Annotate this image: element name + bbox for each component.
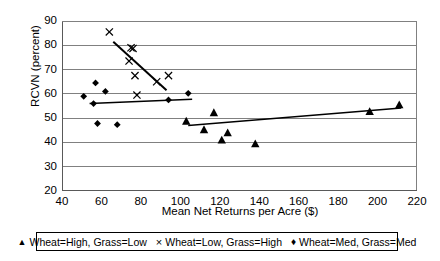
y-tick-label: 40 [31, 136, 57, 147]
data-point-diamond [92, 80, 99, 87]
data-point-triangle [218, 136, 226, 144]
data-point-diamond [185, 90, 192, 97]
x-tick-label: 160 [284, 196, 314, 207]
legend-item: ▲Wheat=High, Grass=Low [18, 236, 147, 248]
y-tick-label: 90 [31, 15, 57, 26]
legend-item-label: Wheat=Low, Grass=High [165, 236, 282, 248]
data-point-cross [106, 28, 113, 35]
plot-area [62, 21, 417, 191]
data-point-triangle [210, 108, 218, 116]
x-tick-label: 220 [402, 196, 432, 207]
diamond-marker-icon: ♦ [291, 237, 296, 247]
data-point-triangle [395, 101, 403, 109]
legend-item-label: Wheat=High, Grass=Low [30, 236, 147, 248]
x-tick-label: 60 [86, 196, 116, 207]
chart-container: RCVN (percent) Mean Net Returns per Acre… [0, 0, 440, 261]
legend-item: ♦Wheat=Med, Grass=Med [291, 236, 416, 248]
x-tick-label: 140 [244, 196, 274, 207]
x-tick-label: 180 [323, 196, 353, 207]
data-point-triangle [251, 139, 259, 147]
triangle-marker-icon: ▲ [18, 237, 27, 247]
series-cross [106, 28, 172, 98]
data-point-cross [131, 72, 138, 79]
cross-marker-icon: × [156, 237, 162, 247]
data-point-triangle [223, 129, 231, 137]
data-point-cross [165, 72, 172, 79]
trendline-diamond [90, 99, 193, 103]
y-tick-label: 70 [31, 64, 57, 75]
x-tick-label: 200 [363, 196, 393, 207]
y-tick-label: 60 [31, 88, 57, 99]
data-point-diamond [114, 121, 121, 128]
x-tick-label: 40 [47, 196, 77, 207]
plot-svg [62, 21, 417, 191]
data-point-triangle [200, 125, 208, 133]
y-tick-label: 50 [31, 112, 57, 123]
data-point-diamond [94, 120, 101, 127]
y-tick-label: 20 [31, 185, 57, 196]
trendline-triangle [188, 108, 401, 125]
legend-item-label: Wheat=Med, Grass=Med [299, 236, 416, 248]
x-tick-label: 100 [165, 196, 195, 207]
x-tick-label: 80 [126, 196, 156, 207]
y-tick-label: 30 [31, 161, 57, 172]
data-point-cross [133, 91, 140, 98]
chart-legend: ▲Wheat=High, Grass=Low×Wheat=Low, Grass=… [36, 232, 398, 251]
legend-item: ×Wheat=Low, Grass=High [156, 236, 282, 248]
y-tick-label: 80 [31, 39, 57, 50]
trendline-cross [113, 42, 166, 91]
x-tick-label: 120 [205, 196, 235, 207]
